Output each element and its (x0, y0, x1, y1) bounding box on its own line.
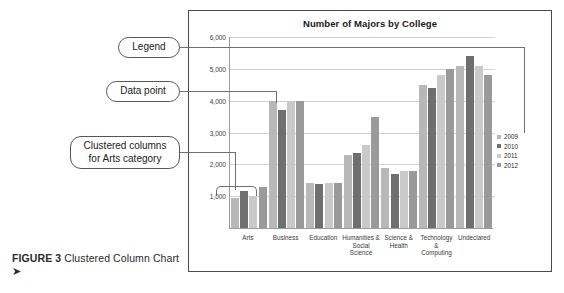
x-axis-category-label: Education (304, 231, 342, 255)
leader-line-cluster-horizontal (180, 152, 236, 153)
bar[interactable] (391, 174, 399, 228)
bar[interactable] (466, 56, 474, 228)
bar-cluster (343, 37, 381, 228)
leader-line-data-horizontal (180, 91, 277, 92)
bar[interactable] (428, 88, 436, 228)
bars-layer (230, 37, 493, 228)
bar[interactable] (446, 69, 454, 228)
legend-item[interactable]: 2012 (497, 162, 541, 169)
bar[interactable] (296, 101, 304, 228)
bar[interactable] (371, 117, 379, 228)
bar[interactable] (344, 155, 352, 228)
bar-cluster (305, 37, 343, 228)
bar[interactable] (362, 145, 370, 228)
legend-swatch-icon (497, 163, 501, 167)
chart-frame: Number of Majors by College 6,0005,0004,… (188, 10, 552, 272)
bar[interactable] (231, 198, 239, 228)
legend-swatch-icon (497, 144, 501, 148)
arts-cluster-brace (216, 186, 257, 196)
bar[interactable] (325, 183, 333, 228)
bar[interactable] (315, 184, 323, 228)
leader-line-cluster-vertical (235, 152, 236, 190)
legend-swatch-icon (497, 154, 501, 158)
bar[interactable] (456, 66, 464, 228)
y-axis-tick-label: 4,000 (210, 97, 226, 104)
callout-data-point: Data point (106, 81, 180, 102)
y-axis-tick-label: 5,000 (210, 65, 226, 72)
chart-title: Number of Majors by College (189, 18, 551, 29)
x-axis-category-label: Humanities & Social Science (342, 231, 380, 255)
legend-item[interactable]: 2011 (497, 152, 541, 159)
bar[interactable] (259, 187, 267, 228)
legend-item[interactable]: 2009 (497, 133, 541, 140)
figure-arrow-icon: ➤ (12, 265, 21, 277)
legend-item[interactable]: 2010 (497, 143, 541, 150)
x-axis-category-label: Arts (229, 231, 267, 255)
bar[interactable] (240, 191, 248, 228)
legend-label: 2010 (504, 143, 518, 150)
plot-area: 6,0005,0004,0003,0002,0001,000 (229, 37, 493, 229)
y-axis-tick-label: 2,000 (210, 161, 226, 168)
bar-cluster (380, 37, 418, 228)
bar[interactable] (249, 196, 257, 228)
x-axis-category-label: Science & Health (380, 231, 418, 255)
bar[interactable] (475, 66, 483, 228)
bar-cluster (455, 37, 493, 228)
x-axis-labels: ArtsBusinessEducationHumanities & Social… (229, 231, 493, 255)
x-axis-category-label: Business (267, 231, 305, 255)
leader-line-legend-horizontal (180, 47, 525, 48)
callout-legend: Legend (118, 37, 180, 58)
legend-label: 2009 (504, 133, 518, 140)
figure-caption-text: Clustered Column Chart (61, 252, 179, 264)
bar[interactable] (381, 168, 389, 228)
bar[interactable] (306, 183, 314, 228)
chart-legend: 2009201020112012 (497, 133, 541, 171)
x-axis-category-label: Technology & Computing (418, 231, 456, 255)
x-axis-category-label: Undeclared (455, 231, 493, 255)
bar[interactable] (409, 171, 417, 228)
leader-line-legend-vertical (524, 47, 525, 133)
bar[interactable] (287, 101, 295, 228)
bar[interactable] (419, 85, 427, 228)
bar-cluster (230, 37, 268, 228)
bar-cluster (268, 37, 306, 228)
bar[interactable] (400, 171, 408, 228)
leader-line-data-vertical (276, 91, 277, 103)
figure-caption: FIGURE 3 Clustered Column Chart ➤ (12, 252, 184, 278)
bar[interactable] (437, 75, 445, 228)
bar[interactable] (269, 101, 277, 228)
bar[interactable] (278, 110, 286, 228)
legend-label: 2011 (504, 152, 518, 159)
bar-cluster (418, 37, 456, 228)
bar[interactable] (484, 75, 492, 228)
legend-swatch-icon (497, 135, 501, 139)
y-axis-tick-label: 6,000 (210, 34, 226, 41)
legend-label: 2012 (504, 162, 518, 169)
bar[interactable] (334, 183, 342, 228)
figure-number: FIGURE 3 (12, 252, 61, 264)
y-axis-tick-label: 3,000 (210, 129, 226, 136)
bar[interactable] (353, 153, 361, 228)
callout-clustered-columns: Clustered columns for Arts category (70, 136, 180, 169)
